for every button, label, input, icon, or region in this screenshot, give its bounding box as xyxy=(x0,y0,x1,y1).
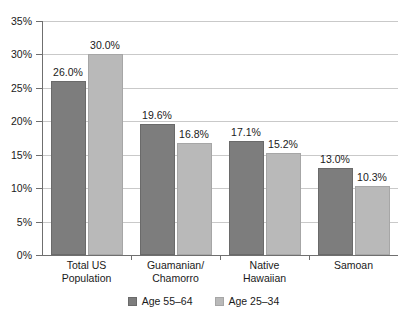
y-axis-tick-label: 35% xyxy=(11,16,32,27)
x-axis-label-line: Native xyxy=(250,259,280,271)
bar xyxy=(229,141,264,255)
x-axis-category-label: Guamanian/Chamorro xyxy=(131,259,220,284)
x-axis-category-label: Total USPopulation xyxy=(42,259,131,284)
y-axis-tick-label: 0% xyxy=(17,250,32,261)
legend-label: Age 25–34 xyxy=(229,296,280,307)
bar-value-label: 16.8% xyxy=(171,129,218,140)
bar xyxy=(177,143,212,255)
bar-value-label: 26.0% xyxy=(45,67,92,78)
bar-value-label: 13.0% xyxy=(312,154,359,165)
chart-legend: Age 55–64Age 25–34 xyxy=(0,296,407,307)
y-axis-tick-label: 25% xyxy=(11,83,32,94)
x-axis-label-line: Samoan xyxy=(334,259,373,271)
y-axis-tick-label: 15% xyxy=(11,150,32,161)
y-axis-tick-label: 5% xyxy=(17,217,32,228)
x-axis-category-label: NativeHawaiian xyxy=(220,259,309,284)
x-axis-label-line: Chamorro xyxy=(131,272,220,285)
y-axis-tick-label: 10% xyxy=(11,183,32,194)
bar xyxy=(88,54,123,255)
legend-swatch-icon xyxy=(128,297,137,306)
legend-item: Age 55–64 xyxy=(128,296,193,307)
bar xyxy=(140,124,175,255)
bar-value-label: 30.0% xyxy=(82,40,129,51)
legend-swatch-icon xyxy=(215,297,224,306)
bar-value-label: 10.3% xyxy=(349,172,396,183)
y-axis-tick-label: 30% xyxy=(11,49,32,60)
x-axis-label-line: Guamanian/ xyxy=(147,259,204,271)
x-axis-label-line: Hawaiian xyxy=(220,272,309,285)
bar-value-label: 15.2% xyxy=(260,139,307,150)
bars-layer: 26.0%30.0%19.6%16.8%17.1%15.2%13.0%10.3% xyxy=(42,21,398,255)
bar xyxy=(355,186,390,255)
bar xyxy=(318,168,353,255)
x-axis-category-label: Samoan xyxy=(309,259,398,272)
x-axis-label-line: Population xyxy=(42,272,131,285)
bar-value-label: 17.1% xyxy=(223,127,270,138)
bar xyxy=(266,153,301,255)
legend-item: Age 25–34 xyxy=(215,296,280,307)
bar-chart: 0%5%10%15%20%25%30%35% 26.0%30.0%19.6%16… xyxy=(0,0,407,319)
legend-label: Age 55–64 xyxy=(142,296,193,307)
bar-value-label: 19.6% xyxy=(134,110,181,121)
bar xyxy=(51,81,86,255)
x-axis-label-line: Total US xyxy=(67,259,107,271)
y-axis-tick-label: 20% xyxy=(11,116,32,127)
